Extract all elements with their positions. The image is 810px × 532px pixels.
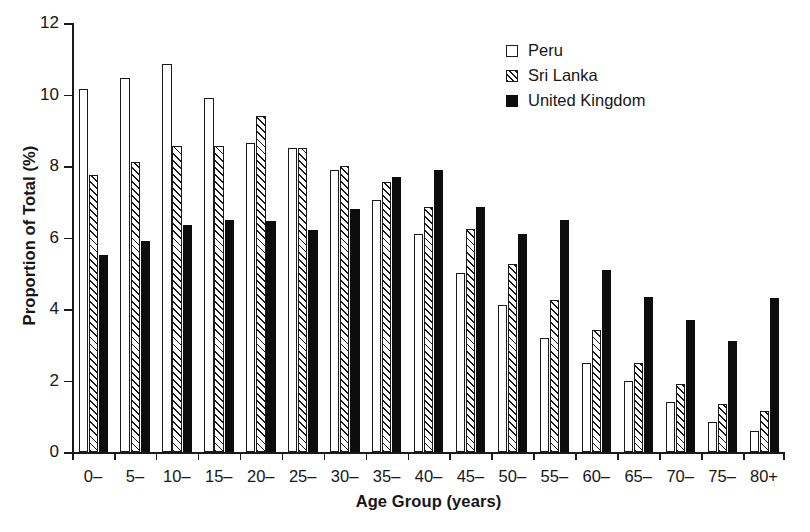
y-tick-label: 6 [50, 228, 59, 248]
x-tick-mark [659, 452, 661, 460]
bar-sri-lanka [718, 404, 727, 452]
y-tick-mark [64, 452, 72, 454]
bar-united-kingdom [686, 320, 695, 452]
bar-united-kingdom [141, 241, 150, 452]
x-axis-title: Age Group (years) [72, 492, 785, 511]
y-tick-label: 2 [50, 371, 59, 391]
y-axis-line [72, 23, 74, 452]
x-tick-label: 35– [373, 467, 401, 486]
y-axis-title: Proportion of Total (%) [20, 86, 39, 386]
x-tick-mark [156, 452, 158, 460]
x-tick-mark [617, 452, 619, 460]
bar-sri-lanka [550, 300, 559, 452]
x-tick-label: 20– [247, 467, 275, 486]
bar-sri-lanka [340, 166, 349, 452]
bar-sri-lanka [592, 330, 601, 452]
x-tick-mark [783, 452, 785, 460]
x-tick-mark [198, 452, 200, 460]
x-tick-label: 75– [708, 467, 736, 486]
bar-united-kingdom [518, 234, 527, 452]
bar-sri-lanka [131, 162, 140, 452]
bar-sri-lanka [214, 146, 223, 452]
bar-peru [79, 89, 88, 452]
x-tick-label: 40– [415, 467, 443, 486]
plot-area: 024681012 0–5–10–15–20–25–30–35–40–45–50… [72, 23, 785, 452]
bar-peru [456, 273, 465, 452]
x-tick-mark [72, 452, 74, 460]
bar-sri-lanka [382, 182, 391, 452]
legend-label: Sri Lanka [528, 66, 598, 85]
x-tick-label: 45– [457, 467, 485, 486]
bar-united-kingdom [350, 209, 359, 452]
y-tick-label: 0 [50, 442, 59, 462]
y-tick-mark [64, 381, 72, 383]
bar-united-kingdom [99, 255, 108, 452]
bar-peru [750, 431, 759, 452]
bar-united-kingdom [308, 230, 317, 452]
bar-united-kingdom [392, 177, 401, 452]
legend-label: Peru [528, 41, 563, 60]
bar-peru [372, 200, 381, 452]
bar-united-kingdom [644, 297, 653, 453]
bar-peru [414, 234, 423, 452]
x-tick-mark [449, 452, 451, 460]
x-tick-mark [701, 452, 703, 460]
legend-label: United Kingdom [528, 91, 645, 110]
bar-sri-lanka [298, 148, 307, 452]
y-tick-mark [64, 23, 72, 25]
x-tick-label: 5– [126, 467, 144, 486]
bar-united-kingdom [770, 298, 779, 452]
y-tick-mark [64, 238, 72, 240]
bar-united-kingdom [728, 341, 737, 452]
y-tick-mark [64, 95, 72, 97]
y-tick-label: 8 [50, 156, 59, 176]
bar-sri-lanka [508, 264, 517, 452]
bar-sri-lanka [760, 411, 769, 452]
bar-united-kingdom [602, 270, 611, 452]
bar-sri-lanka [466, 229, 475, 452]
y-tick-label: 12 [40, 13, 59, 33]
bar-peru [204, 98, 213, 452]
open-square-icon [506, 45, 518, 57]
y-tick-label: 10 [40, 85, 59, 105]
x-tick-label: 55– [541, 467, 569, 486]
bar-united-kingdom [560, 220, 569, 452]
bar-peru [666, 402, 675, 452]
x-tick-label: 30– [331, 467, 359, 486]
y-tick-mark [64, 166, 72, 168]
bar-peru [708, 422, 717, 452]
x-tick-label: 65– [624, 467, 652, 486]
bar-sri-lanka [256, 116, 265, 452]
legend-item-united-kingdom: United Kingdom [506, 88, 645, 113]
filled-square-icon [506, 95, 518, 107]
legend-item-sri-lanka: Sri Lanka [506, 63, 645, 88]
legend-item-peru: Peru [506, 38, 645, 63]
x-tick-label: 60– [582, 467, 610, 486]
bar-peru [330, 170, 339, 452]
bar-peru [624, 381, 633, 453]
bar-peru [582, 363, 591, 452]
x-tick-label: 50– [499, 467, 527, 486]
x-tick-mark [324, 452, 326, 460]
bar-united-kingdom [225, 220, 234, 452]
bar-united-kingdom [476, 207, 485, 452]
x-tick-mark [114, 452, 116, 460]
bar-sri-lanka [424, 207, 433, 452]
bar-peru [498, 305, 507, 452]
bar-united-kingdom [183, 225, 192, 452]
x-tick-mark [533, 452, 535, 460]
x-tick-mark [408, 452, 410, 460]
bar-sri-lanka [172, 146, 181, 452]
x-tick-mark [575, 452, 577, 460]
chart-legend: Peru Sri Lanka United Kingdom [506, 38, 645, 113]
bar-united-kingdom [434, 170, 443, 452]
x-tick-label: 25– [289, 467, 317, 486]
x-tick-label: 70– [666, 467, 694, 486]
bar-united-kingdom [266, 221, 275, 452]
bar-peru [288, 148, 297, 452]
x-tick-mark [240, 452, 242, 460]
y-tick-label: 4 [50, 299, 59, 319]
x-tick-mark [743, 452, 745, 460]
y-tick-mark [64, 309, 72, 311]
x-tick-mark [491, 452, 493, 460]
